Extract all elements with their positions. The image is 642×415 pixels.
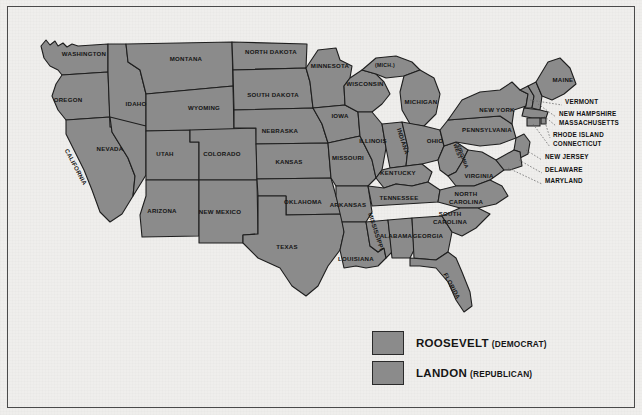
map-frame-border xyxy=(7,6,635,408)
map-page: WASHINGTONOREGONCALIFORNIAIDAHONEVADAMON… xyxy=(0,0,642,415)
